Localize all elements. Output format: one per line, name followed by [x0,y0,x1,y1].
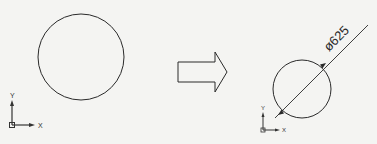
ucs-x-label-right: X [282,127,286,133]
dimensioned-circle [273,60,331,118]
original-circle [38,14,124,100]
ucs-y-label-left: Y [10,92,15,99]
block-arrow-right-icon [178,52,227,92]
diameter-dimension-text: ø625 [321,23,353,55]
ucs-y-label-right: Y [261,105,265,111]
diameter-dimension [275,25,368,118]
drawing-canvas: Y X ø625 Y X [0,0,377,144]
ucs-x-label-left: X [38,122,43,129]
ucs-icon-left [10,100,36,128]
ucs-icon-right [261,112,280,132]
